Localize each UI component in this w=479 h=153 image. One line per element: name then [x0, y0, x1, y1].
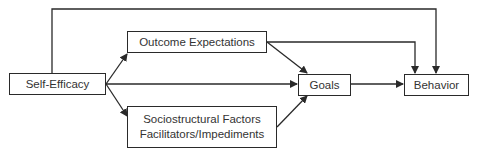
arrow-sociostructural-to-goals — [277, 96, 307, 127]
node-label-line2: Facilitators/Impediments — [140, 127, 265, 142]
node-label-line1: Sociostructural Factors — [143, 112, 261, 127]
node-sociostructural-factors: Sociostructural Factors Facilitators/Imp… — [127, 106, 277, 148]
node-label: Behavior — [414, 78, 459, 93]
node-label: Self-Efficacy — [26, 77, 90, 92]
node-self-efficacy: Self-Efficacy — [9, 73, 106, 95]
arrow-outcome-to-goals — [267, 42, 307, 73]
node-behavior: Behavior — [404, 74, 469, 96]
arrow-self-efficacy-to-sociostructural — [106, 84, 127, 116]
arrow-outcome-to-behavior — [267, 42, 415, 73]
arrow-self-efficacy-to-outcome — [106, 54, 127, 84]
node-label: Outcome Expectations — [139, 35, 255, 50]
node-outcome-expectations: Outcome Expectations — [127, 31, 267, 53]
node-goals: Goals — [298, 74, 351, 96]
node-label: Goals — [309, 78, 339, 93]
